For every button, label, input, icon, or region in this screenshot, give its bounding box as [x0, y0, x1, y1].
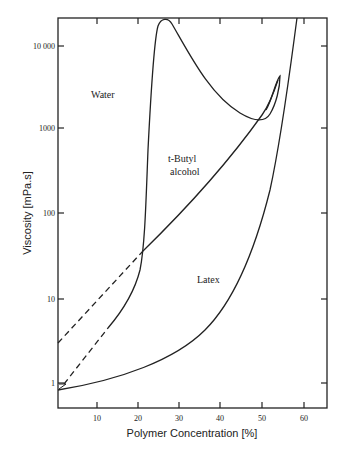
x-axis-label: Polymer Concentration [%] [127, 427, 258, 439]
svg-text:30: 30 [175, 414, 183, 423]
latex-curve [58, 18, 297, 390]
tba-label-line1: t-Butyl [168, 153, 197, 164]
svg-text:60: 60 [300, 414, 308, 423]
svg-text:100: 100 [43, 209, 55, 218]
svg-text:1: 1 [51, 379, 55, 388]
y-axis-label: Viscosity [mPa.s] [21, 171, 33, 255]
plot-frame [58, 18, 327, 408]
water-curve-dashed [64, 328, 108, 384]
svg-text:20: 20 [134, 414, 142, 423]
svg-text:40: 40 [216, 414, 224, 423]
latex-label: Latex [197, 274, 220, 285]
viscosity-chart: 10 20 30 40 50 60 10 000 1000 100 10 1 P… [0, 0, 343, 459]
x-tick-labels: 10 20 30 40 50 60 [93, 414, 308, 423]
tba-curve [143, 80, 278, 251]
svg-text:1000: 1000 [39, 124, 55, 133]
x-ticks [97, 18, 304, 408]
svg-text:10 000: 10 000 [33, 42, 55, 51]
tba-label-line2: alcohol [170, 166, 200, 177]
svg-text:50: 50 [258, 414, 266, 423]
water-label: Water [91, 89, 115, 100]
svg-text:10: 10 [93, 414, 101, 423]
tba-curve-dashed [58, 251, 143, 343]
svg-text:10: 10 [47, 295, 55, 304]
y-tick-labels: 10 000 1000 100 10 1 [33, 42, 55, 388]
